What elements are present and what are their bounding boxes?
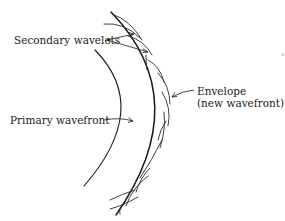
wavelet-arc xyxy=(146,55,147,70)
wavelet-arc xyxy=(158,73,170,104)
primary-wavefront-label: Primary wavefront xyxy=(10,114,110,126)
secondary-wavelets-label: Secondary wavelets xyxy=(14,34,120,46)
envelope-arrow xyxy=(172,90,194,97)
envelope-sublabel: (new wavefront) xyxy=(197,97,284,109)
wavelet-arc xyxy=(140,140,162,178)
huygens-diagram: Secondary wavelets Envelope (new wavefro… xyxy=(0,0,285,221)
scan-mark xyxy=(282,53,284,56)
envelope-label: Envelope xyxy=(197,85,246,97)
